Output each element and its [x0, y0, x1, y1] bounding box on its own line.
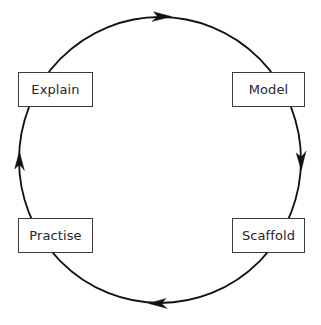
cycle-node-scaffold[interactable]: Scaffold [232, 218, 305, 253]
cycle-node-explain[interactable]: Explain [18, 72, 93, 107]
cycle-node-explain-label: Explain [31, 83, 79, 96]
cycle-ring [19, 17, 301, 303]
cycle-node-practise[interactable]: Practise [18, 218, 93, 253]
cycle-node-model-label: Model [249, 83, 289, 96]
cycle-node-model[interactable]: Model [232, 72, 305, 107]
cycle-arc-layer [0, 0, 321, 325]
cycle-node-scaffold-label: Scaffold [242, 229, 295, 242]
cycle-diagram: Explain Model Scaffold Practise [0, 0, 321, 325]
cycle-node-practise-label: Practise [29, 229, 81, 242]
